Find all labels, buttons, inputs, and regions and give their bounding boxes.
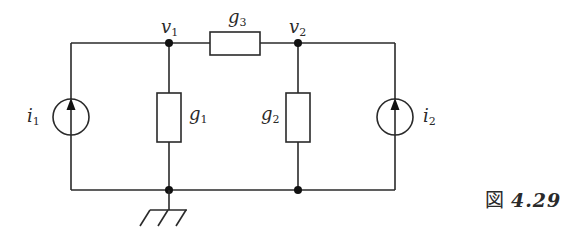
ground-icon <box>140 190 187 226</box>
node-v2 <box>294 39 302 47</box>
conductance-g2 <box>286 93 310 142</box>
wires <box>71 43 395 190</box>
current-source-i1 <box>53 98 89 135</box>
label-v2: v2 <box>289 16 306 39</box>
current-source-i2 <box>377 98 413 135</box>
node-v1 <box>165 39 173 47</box>
label-g2: g2 <box>261 103 280 126</box>
node-bottom-right <box>294 186 302 194</box>
figure-number: 4.29 <box>511 189 561 211</box>
label-g3: g3 <box>228 6 247 29</box>
figure-caption: 図4.29 <box>485 185 561 212</box>
label-g1: g1 <box>189 103 208 126</box>
label-i2: i2 <box>423 105 436 128</box>
conductance-g1 <box>157 93 181 142</box>
label-v1: v1 <box>161 16 178 39</box>
conductance-g3 <box>210 32 260 55</box>
figure-prefix: 図 <box>485 189 504 211</box>
label-i1: i1 <box>27 105 40 128</box>
